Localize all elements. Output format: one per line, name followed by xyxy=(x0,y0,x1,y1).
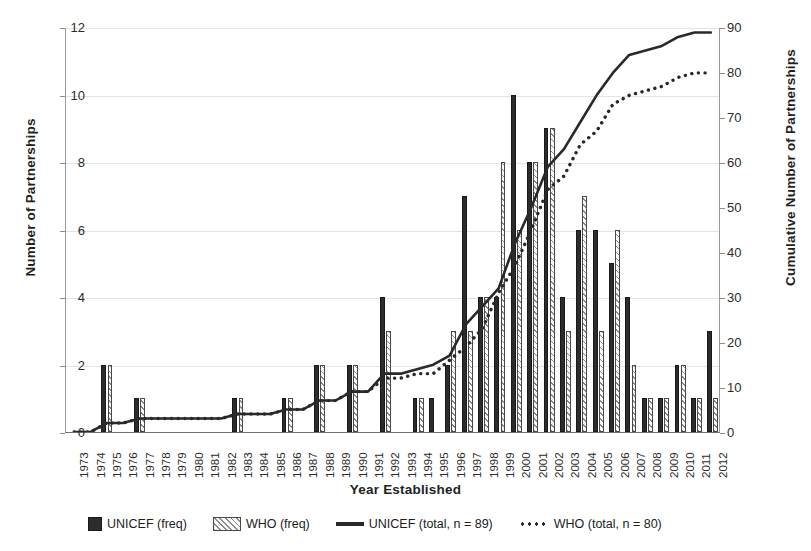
x-axis-tick-label: 2005 xyxy=(602,452,614,478)
y-axis-right-tick-label: 50 xyxy=(727,201,767,214)
x-axis-tick-label: 1989 xyxy=(340,452,352,478)
x-axis-tick-label: 1998 xyxy=(488,452,500,478)
x-axis-tick-label: 1996 xyxy=(455,452,467,478)
who-cumulative-line xyxy=(74,73,711,432)
x-axis-tick-label: 1988 xyxy=(324,452,336,478)
x-axis-tick-label: 2007 xyxy=(635,452,647,478)
unicef-line-swatch xyxy=(336,522,364,525)
y-axis-left-tick-label: 2 xyxy=(45,359,85,372)
x-axis-tick-label: 1994 xyxy=(422,452,434,478)
y-axis-right-tick-mark xyxy=(720,208,725,209)
x-axis-tick-label: 2002 xyxy=(553,452,565,478)
x-axis-tick-label: 1986 xyxy=(291,452,303,478)
y-axis-left-tick-mark xyxy=(60,298,65,299)
y-axis-left-title: Number of Partnerships xyxy=(23,83,38,313)
y-axis-right-tick-label: 90 xyxy=(727,21,767,34)
y-axis-right-tick-mark xyxy=(720,118,725,119)
y-axis-right-tick-label: 0 xyxy=(727,426,767,439)
x-axis-tick-label: 1977 xyxy=(144,452,156,478)
chart-legend: UNICEF (freq)WHO (freq)UNICEF (total, n … xyxy=(88,512,788,536)
who-line-swatch xyxy=(519,522,549,526)
legend-item-label: WHO (freq) xyxy=(246,517,310,531)
x-axis-tick-label: 2001 xyxy=(537,452,549,478)
x-axis-tick-label: 1992 xyxy=(389,452,401,478)
who-bar-swatch xyxy=(213,517,241,531)
x-axis-tick-label: 1973 xyxy=(78,452,90,478)
x-axis-tick-label: 1999 xyxy=(504,452,516,478)
x-axis-tick-label: 2000 xyxy=(520,452,532,478)
x-axis-tick-label: 2008 xyxy=(651,452,663,478)
y-axis-left-tick-label: 10 xyxy=(45,89,85,102)
y-axis-right-tick-label: 70 xyxy=(727,111,767,124)
legend-item: WHO (freq) xyxy=(213,517,310,531)
x-axis-tick-label: 2004 xyxy=(586,452,598,478)
y-axis-left-tick-label: 4 xyxy=(45,291,85,304)
x-axis-tick-label: 2012 xyxy=(717,452,729,478)
x-axis-ticks: 1973197419751976197719781979198019811982… xyxy=(65,436,720,482)
y-axis-left-tick-mark xyxy=(60,433,65,434)
y-axis-left-tick-mark xyxy=(60,231,65,232)
y-axis-left-tick-mark xyxy=(60,96,65,97)
y-axis-left-tick-label: 12 xyxy=(45,21,85,34)
y-axis-right-tick-mark xyxy=(720,253,725,254)
x-axis-tick-label: 2010 xyxy=(684,452,696,478)
legend-item: UNICEF (total, n = 89) xyxy=(336,517,493,531)
y-axis-right-tick-mark xyxy=(720,433,725,434)
x-axis-title: Year Established xyxy=(0,482,811,497)
x-axis-tick-label: 1993 xyxy=(406,452,418,478)
y-axis-right-tick-mark xyxy=(720,343,725,344)
y-axis-right-tick-mark xyxy=(720,163,725,164)
x-axis-tick-label: 1995 xyxy=(438,452,450,478)
legend-item-label: UNICEF (total, n = 89) xyxy=(369,517,493,531)
y-axis-right-tick-label: 40 xyxy=(727,246,767,259)
x-axis-tick-label: 1990 xyxy=(357,452,369,478)
x-axis-tick-label: 1983 xyxy=(242,452,254,478)
y-axis-right-title: Cumulative Number of Partnerships xyxy=(783,18,798,318)
x-axis-tick-label: 1985 xyxy=(275,452,287,478)
unicef-bar-swatch xyxy=(88,517,102,531)
x-axis-tick-label: 1991 xyxy=(373,452,385,478)
y-axis-right-tick-label: 80 xyxy=(727,66,767,79)
x-axis-tick-label: 1987 xyxy=(307,452,319,478)
x-axis-tick-label: 1979 xyxy=(176,452,188,478)
y-axis-right-tick-label: 20 xyxy=(727,336,767,349)
y-axis-right-tick-mark xyxy=(720,298,725,299)
x-axis-tick-label: 1975 xyxy=(111,452,123,478)
x-axis-tick-label: 1976 xyxy=(127,452,139,478)
legend-item: UNICEF (freq) xyxy=(88,517,187,531)
legend-item-label: WHO (total, n = 80) xyxy=(554,517,662,531)
x-axis-tick-label: 2006 xyxy=(619,452,631,478)
x-axis-tick-label: 1974 xyxy=(95,452,107,478)
x-axis-tick-label: 1980 xyxy=(193,452,205,478)
x-axis-tick-label: 2011 xyxy=(700,453,712,478)
legend-item: WHO (total, n = 80) xyxy=(519,517,662,531)
y-axis-left-tick-label: 6 xyxy=(45,224,85,237)
y-axis-left-tick-label: 8 xyxy=(45,156,85,169)
line-series-group xyxy=(66,28,719,432)
unicef-cumulative-line xyxy=(74,32,711,432)
y-axis-left-tick-mark xyxy=(60,28,65,29)
plot-area xyxy=(65,28,720,433)
x-axis-tick-label: 1978 xyxy=(160,452,172,478)
x-axis-tick-label: 1981 xyxy=(209,452,221,478)
x-axis-tick-label: 1984 xyxy=(258,452,270,478)
y-axis-left-tick-mark xyxy=(60,163,65,164)
x-axis-tick-label: 1997 xyxy=(471,452,483,478)
y-axis-right-tick-mark xyxy=(720,28,725,29)
chart-figure: Number of Partnerships Cumulative Number… xyxy=(0,0,811,551)
x-axis-tick-label: 2003 xyxy=(569,452,581,478)
y-axis-right-tick-mark xyxy=(720,73,725,74)
y-axis-right-tick-label: 30 xyxy=(727,291,767,304)
legend-item-label: UNICEF (freq) xyxy=(107,517,187,531)
x-axis-tick-label: 2009 xyxy=(668,452,680,478)
y-axis-left-tick-mark xyxy=(60,366,65,367)
y-axis-right-tick-label: 60 xyxy=(727,156,767,169)
x-axis-tick-label: 1982 xyxy=(226,452,238,478)
y-axis-right-tick-label: 10 xyxy=(727,381,767,394)
y-axis-right-tick-mark xyxy=(720,388,725,389)
